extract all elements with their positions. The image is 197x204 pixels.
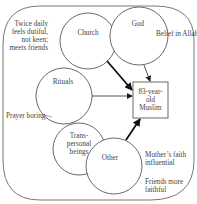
- other-label: Other: [92, 154, 128, 162]
- transpersonal-label-line: personal: [56, 140, 102, 148]
- other-note-2-line: faithful: [145, 186, 195, 194]
- other-note-2-line: Friends more: [145, 178, 195, 186]
- transpersonal-label: Trans- personal beings: [56, 132, 102, 156]
- rituals-label: Rituals: [40, 78, 86, 86]
- church-note-line: Twice daily: [4, 20, 48, 28]
- other-note-1-line: influential: [145, 159, 195, 167]
- other-note-1: Mother’s faith influential: [145, 151, 195, 167]
- god-note: Belief in Allah: [156, 30, 197, 38]
- church-note: Twice daily feels dutiful, not keen; mee…: [4, 20, 48, 52]
- edge-god-central: [144, 65, 150, 81]
- central-label: 83-year- old Muslim: [133, 88, 168, 112]
- other-note-1-line: Mother’s faith: [145, 151, 195, 159]
- central-label-line: old: [133, 96, 168, 104]
- edge-church-central: [107, 61, 132, 90]
- transpersonal-label-line: Trans-: [56, 132, 102, 140]
- church-note-line: feels dutiful,: [4, 28, 48, 36]
- central-label-line: 83-year-: [133, 88, 168, 96]
- central-label-line: Muslim: [133, 104, 168, 112]
- church-note-line: not keen;: [4, 36, 48, 44]
- other-note-2: Friends more faithful: [145, 178, 195, 194]
- edge-other-central: [126, 119, 140, 140]
- rituals-note: Prayer boring: [6, 112, 56, 120]
- church-note-line: meets friends: [4, 44, 48, 52]
- god-label: God: [118, 20, 158, 28]
- church-label: Church: [66, 29, 110, 37]
